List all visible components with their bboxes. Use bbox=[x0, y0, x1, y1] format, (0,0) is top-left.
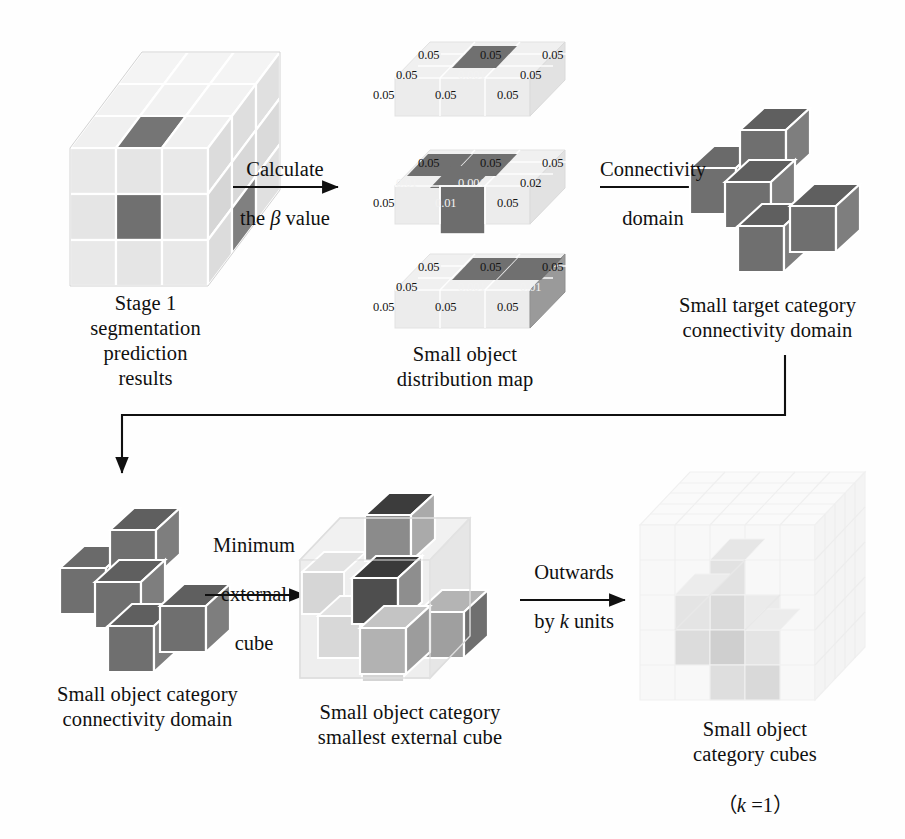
k-paren-close: ） bbox=[773, 794, 793, 816]
calc-pre: the bbox=[240, 207, 270, 229]
calc-post: value bbox=[280, 207, 330, 229]
slab-value: 0.05 bbox=[396, 280, 417, 295]
slab-value: 0.05 bbox=[435, 300, 456, 315]
slab-value: 0.001 bbox=[458, 68, 486, 83]
arrow-label-calculate-beta: Calculate the β value bbox=[218, 132, 352, 255]
slab-value: 0.05 bbox=[373, 88, 394, 103]
small-object-category-cubes bbox=[640, 472, 865, 700]
arrow-label-minimum-external-cube: Minimum external cube bbox=[188, 508, 320, 680]
k-symbol-arrow: k bbox=[560, 610, 569, 632]
calc-line1: Calculate bbox=[218, 157, 352, 182]
slab-value: 0.01 bbox=[520, 280, 541, 295]
slab-value: 0.05 bbox=[542, 260, 563, 275]
slab-value: 0.05 bbox=[480, 156, 501, 171]
calc-line2: the β value bbox=[218, 206, 352, 231]
slab-value: 0.05 bbox=[435, 88, 456, 103]
out-pre: by bbox=[534, 610, 560, 632]
small-object-smallest-external-cube bbox=[300, 493, 488, 682]
slab-value: 0.05 bbox=[542, 156, 563, 171]
min-line1: Minimum bbox=[188, 533, 320, 558]
min-line3: cube bbox=[188, 631, 320, 656]
slab-value: 0.001 bbox=[458, 280, 486, 295]
caption-category-cubes: Small object category cubes bbox=[620, 717, 890, 767]
arrow-label-outwards-by-k: Outwards by k units bbox=[508, 535, 640, 658]
slab-value: 0.01 bbox=[435, 196, 456, 211]
conn-line1: Connectivity bbox=[583, 157, 723, 182]
out-line2: by k units bbox=[508, 609, 640, 634]
k-symbol: k bbox=[737, 794, 746, 816]
slab-value: 0.001 bbox=[458, 176, 486, 191]
slab-value: 0.05 bbox=[418, 48, 439, 63]
slab-value: 0.05 bbox=[480, 260, 501, 275]
slab-value: 0.05 bbox=[497, 196, 518, 211]
caption-smallest-external-cube: Small object category smallest external … bbox=[265, 700, 555, 750]
caption-category-cubes-k: （k =1） bbox=[620, 768, 890, 818]
slab-value: 0.05 bbox=[373, 196, 394, 211]
slab-value: 0.05 bbox=[418, 260, 439, 275]
min-line2: external bbox=[188, 582, 320, 607]
slab-value: 0.05 bbox=[480, 48, 501, 63]
slab-value: 0.05 bbox=[418, 156, 439, 171]
caption-object-connectivity-domain: Small object category connectivity domai… bbox=[0, 682, 295, 732]
figure-canvas: Stage 1 segmentation prediction results … bbox=[0, 0, 905, 839]
slab-value: 0.05 bbox=[542, 48, 563, 63]
slab-value: 0.05 bbox=[497, 300, 518, 315]
out-line1: Outwards bbox=[508, 560, 640, 585]
slab-value: 0.05 bbox=[373, 300, 394, 315]
out-post: units bbox=[569, 610, 614, 632]
slab-value: 0.05 bbox=[497, 88, 518, 103]
slab-value: 0.02 bbox=[520, 176, 541, 191]
slab-value: 0.05 bbox=[396, 68, 417, 83]
beta-symbol: β bbox=[270, 207, 280, 229]
caption-stage-1: Stage 1 segmentation prediction results bbox=[38, 291, 253, 391]
k-value: =1 bbox=[746, 794, 773, 816]
caption-connectivity-domain: Small target category connectivity domai… bbox=[630, 293, 905, 343]
slab-value: 0.05 bbox=[520, 68, 541, 83]
caption-distribution-map: Small object distribution map bbox=[340, 342, 590, 392]
arrow-label-connectivity: Connectivity domain bbox=[583, 132, 723, 255]
k-paren-open: （ bbox=[717, 794, 737, 816]
conn-line2: domain bbox=[583, 206, 723, 231]
slab-value: 0.01 bbox=[396, 176, 417, 191]
